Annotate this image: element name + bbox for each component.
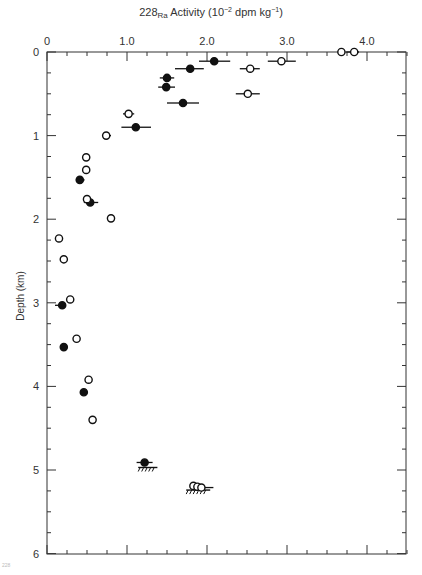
open-data-point xyxy=(83,154,90,161)
filled-data-point xyxy=(141,459,148,466)
y-tick-label: 2 xyxy=(33,213,39,225)
plot-axes: 01.02.03.04.00123456 xyxy=(33,35,407,560)
open-data-point xyxy=(278,58,285,65)
x-tick-label: 4.0 xyxy=(359,35,374,47)
scatter-plot: 01.02.03.04.00123456 Depth (km) xyxy=(0,0,422,575)
filled-data-point xyxy=(179,99,186,106)
x-tick-label: 3.0 xyxy=(279,35,294,47)
error-bars xyxy=(55,52,359,488)
data-points xyxy=(55,48,357,491)
filled-data-point xyxy=(163,84,170,91)
filled-data-point xyxy=(163,74,170,81)
y-tick-label: 0 xyxy=(33,46,39,58)
open-data-point xyxy=(351,48,358,55)
open-data-point xyxy=(338,48,345,55)
filled-data-point xyxy=(80,389,87,396)
y-tick-label: 3 xyxy=(33,297,39,309)
plot-frame xyxy=(47,52,406,554)
open-data-point xyxy=(55,235,62,242)
filled-data-point xyxy=(76,176,83,183)
open-data-point xyxy=(89,416,96,423)
x-tick-label: 0 xyxy=(44,35,50,47)
open-data-point xyxy=(244,90,251,97)
open-data-point xyxy=(60,256,67,263)
open-data-point xyxy=(125,110,132,117)
x-tick-label: 1.0 xyxy=(119,35,134,47)
y-tick-label: 5 xyxy=(33,464,39,476)
y-tick-label: 4 xyxy=(33,380,39,392)
y-axis-label: Depth (km) xyxy=(15,271,26,320)
filled-data-point xyxy=(211,58,218,65)
open-data-point xyxy=(198,484,205,491)
open-data-point xyxy=(103,132,110,139)
open-data-point xyxy=(83,196,90,203)
open-data-point xyxy=(83,166,90,173)
open-data-point xyxy=(85,376,92,383)
open-data-point xyxy=(247,65,254,72)
filled-data-point xyxy=(187,65,194,72)
y-tick-label: 1 xyxy=(33,130,39,142)
filled-data-point xyxy=(60,344,67,351)
filled-data-point xyxy=(59,302,66,309)
open-data-point xyxy=(67,296,74,303)
open-data-point xyxy=(73,335,80,342)
open-data-point xyxy=(107,215,114,222)
footnote: 228 xyxy=(2,562,10,568)
y-tick-label: 6 xyxy=(33,548,39,560)
filled-data-point xyxy=(132,124,139,131)
x-tick-label: 2.0 xyxy=(199,35,214,47)
